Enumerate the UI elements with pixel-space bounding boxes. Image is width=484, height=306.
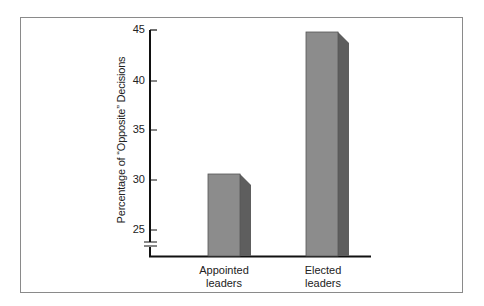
- bar-elected-leaders: [306, 32, 349, 256]
- bar-appointed-leaders: [208, 174, 251, 256]
- x-category-appointed: Appointed leaders: [189, 264, 259, 290]
- chart-plot: [0, 0, 484, 306]
- x-category-line: Appointed: [189, 264, 259, 277]
- x-category-line: Elected: [288, 264, 358, 277]
- x-category-line: leaders: [288, 277, 358, 290]
- x-category-line: leaders: [189, 277, 259, 290]
- x-category-elected: Elected leaders: [288, 264, 358, 290]
